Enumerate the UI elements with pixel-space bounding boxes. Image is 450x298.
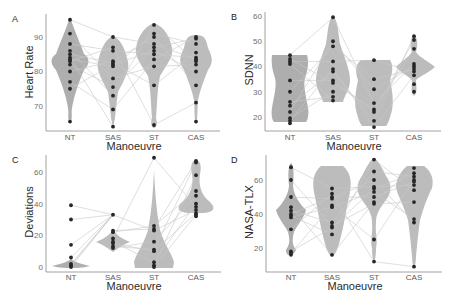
violin-cas <box>180 35 212 124</box>
panel-label-c: C <box>12 155 19 165</box>
data-point <box>372 202 376 206</box>
x-tick-nt: NT <box>285 133 296 142</box>
pair-line <box>71 205 113 215</box>
data-point <box>289 195 293 199</box>
data-point <box>372 101 376 105</box>
data-point <box>111 64 115 68</box>
data-point <box>152 83 156 87</box>
data-point <box>194 42 198 46</box>
data-point <box>68 18 72 22</box>
data-point <box>194 189 198 193</box>
y-ticks-c: 0 20 40 60 <box>34 168 43 272</box>
y-tick-60: 60 <box>254 176 263 185</box>
data-point <box>288 78 292 82</box>
data-point <box>412 265 416 269</box>
pair-lines-d <box>291 160 414 267</box>
y-ticks-a: 70 80 90 <box>34 33 43 111</box>
data-point <box>330 192 334 196</box>
data-point <box>69 203 73 207</box>
data-point <box>194 63 198 67</box>
data-point <box>331 39 335 43</box>
data-point <box>111 49 115 53</box>
y-tick-30: 30 <box>253 88 262 97</box>
y-tick-60: 60 <box>34 168 43 177</box>
data-point <box>68 70 72 74</box>
data-point <box>330 221 334 225</box>
y-tick-90: 90 <box>34 33 43 42</box>
data-point <box>194 83 198 87</box>
data-point <box>288 90 292 94</box>
y-ticks-b: 20 30 40 50 60 <box>253 12 262 122</box>
pair-line <box>113 215 154 231</box>
data-point <box>194 101 198 105</box>
pair-line <box>374 262 414 267</box>
data-point <box>111 85 115 89</box>
data-point <box>330 226 334 230</box>
data-point <box>412 221 416 225</box>
pair-line <box>113 158 154 239</box>
data-point <box>68 120 72 124</box>
data-point <box>68 87 72 91</box>
data-point <box>330 197 334 201</box>
violins-a <box>52 17 212 128</box>
data-point <box>152 35 156 39</box>
x-axis-title-b: Manoeuvre <box>326 140 381 152</box>
x-axis-title-d: Manoeuvre <box>327 280 382 292</box>
y-tick-20: 20 <box>253 113 262 122</box>
data-point <box>152 49 156 53</box>
data-point <box>194 70 198 74</box>
data-point <box>152 123 156 127</box>
data-point <box>372 190 376 194</box>
data-point <box>194 120 198 124</box>
data-point <box>330 233 334 237</box>
data-point <box>412 183 416 187</box>
data-point <box>372 195 376 199</box>
data-point <box>412 73 416 77</box>
data-point <box>331 15 335 19</box>
data-point <box>372 125 376 129</box>
data-point <box>412 180 416 184</box>
data-point <box>372 187 376 191</box>
data-point <box>331 44 335 48</box>
x-tick-nt: NT <box>65 133 76 142</box>
pair-line <box>154 103 196 125</box>
y-tick-40: 40 <box>254 210 263 219</box>
data-point <box>288 104 292 108</box>
data-point <box>412 38 416 42</box>
y-tick-60: 60 <box>253 12 262 21</box>
data-point <box>111 77 115 81</box>
data-point <box>372 77 376 81</box>
data-point <box>330 253 334 257</box>
data-point <box>152 156 156 160</box>
data-point <box>372 178 376 182</box>
data-point <box>372 119 376 123</box>
data-point <box>412 90 416 94</box>
data-point <box>331 90 335 94</box>
data-point <box>288 100 292 104</box>
data-point <box>111 108 115 112</box>
y-tick-0: 0 <box>39 263 44 272</box>
pair-line <box>154 158 196 207</box>
data-point <box>288 62 292 66</box>
y-tick-70: 70 <box>34 102 43 111</box>
y-ticks-d: 20 40 60 <box>254 176 263 253</box>
data-point <box>372 58 376 62</box>
data-point <box>152 249 156 253</box>
data-point <box>111 213 115 217</box>
data-point <box>289 227 293 231</box>
data-point <box>194 37 198 41</box>
data-point <box>152 229 156 233</box>
data-point <box>412 34 416 38</box>
x-axis-title-a: Manoeuvre <box>106 140 161 152</box>
y-tick-20: 20 <box>34 231 43 240</box>
x-tick-cas: CAS <box>188 133 204 142</box>
pair-lines-b <box>290 17 414 127</box>
panel-label-d: D <box>231 155 238 165</box>
data-point <box>288 121 292 125</box>
data-point <box>152 23 156 27</box>
data-point <box>68 80 72 84</box>
data-point <box>412 166 416 170</box>
data-point <box>331 99 335 103</box>
data-point <box>412 47 416 51</box>
data-point <box>152 265 156 269</box>
